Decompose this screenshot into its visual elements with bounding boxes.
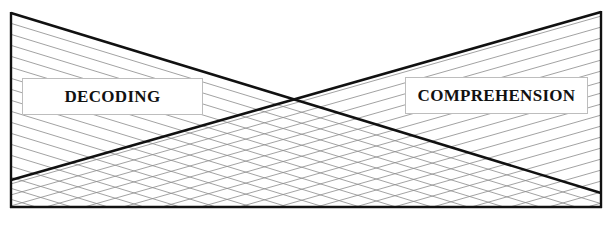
comprehension-label: COMPREHENSION xyxy=(405,77,588,114)
decoding-label: DECODING xyxy=(22,78,203,115)
diagram-canvas xyxy=(0,0,612,235)
